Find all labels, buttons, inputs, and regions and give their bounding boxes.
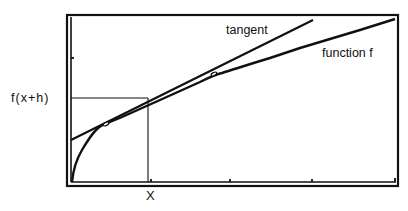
y-value-label: f(x+h) [11, 92, 49, 105]
plot-frame [67, 15, 398, 186]
x-value-label: X [146, 189, 155, 202]
function-curve [72, 19, 395, 182]
function-label: function f [322, 47, 373, 60]
axis-ticks [71, 58, 395, 182]
tangent-label: tangent [226, 24, 268, 37]
touch-point [103, 121, 110, 126]
tangent-diagram [0, 0, 408, 211]
